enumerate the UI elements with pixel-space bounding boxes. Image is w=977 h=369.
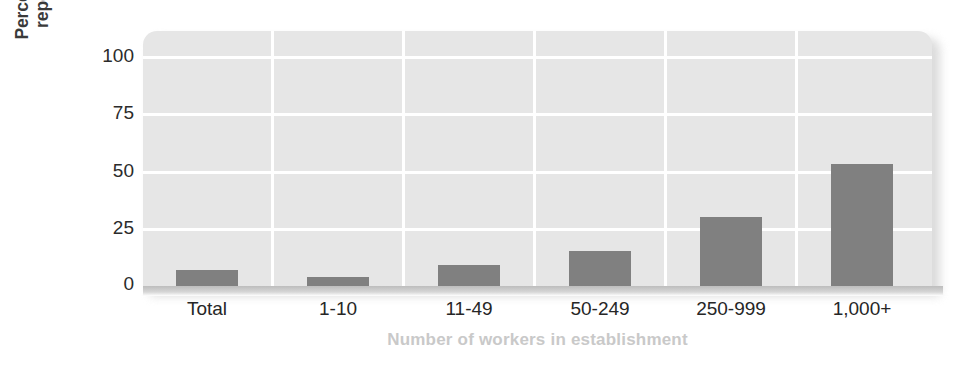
y-tick-50: 50	[72, 160, 134, 182]
y-axis-title: Percentage of establishments reporting a…	[2, 0, 64, 72]
x-tick-11-49: 11-49	[445, 298, 492, 320]
y-tick-100: 100	[72, 45, 134, 67]
gridline-h-75	[143, 113, 932, 116]
gridline-h-25	[143, 228, 932, 231]
bar-1-10	[307, 277, 369, 286]
gridline-v-4	[664, 31, 667, 286]
x-axis-title: Number of workers in establishment	[143, 330, 932, 350]
y-tick-75: 75	[72, 102, 134, 124]
y-axis-title-line-1: Percentage of establishments	[13, 0, 33, 40]
x-tick-total: Total	[187, 298, 227, 320]
axis-baseline	[143, 286, 943, 296]
bar-250-999	[700, 217, 762, 286]
gridline-h-50	[143, 171, 932, 174]
x-tick-1000-plus: 1,000+	[833, 298, 892, 320]
gridline-v-2	[402, 31, 405, 286]
x-tick-250-999: 250-999	[696, 298, 766, 320]
x-axis-tick-labels: Total 1-10 11-49 50-249 250-999 1,000+	[143, 298, 932, 324]
bar-50-249	[569, 251, 631, 286]
y-tick-25: 25	[72, 217, 134, 239]
y-tick-0: 0	[72, 273, 134, 295]
bar-11-49	[438, 265, 500, 286]
gridline-v-5	[795, 31, 798, 286]
bar-total	[176, 270, 238, 286]
gridline-v-1	[271, 31, 274, 286]
plot-area	[143, 31, 932, 286]
y-axis-tick-labels: 100 75 50 25 0	[72, 0, 134, 369]
bar-1000-plus	[831, 164, 893, 286]
gridline-v-3	[533, 31, 536, 286]
y-axis-title-line-2: reporting a violent incident	[33, 0, 53, 28]
x-tick-50-249: 50-249	[570, 298, 629, 320]
gridline-h-100	[143, 56, 932, 59]
x-tick-1-10: 1-10	[319, 298, 357, 320]
bar-chart-figure: Percentage of establishments reporting a…	[0, 0, 977, 369]
